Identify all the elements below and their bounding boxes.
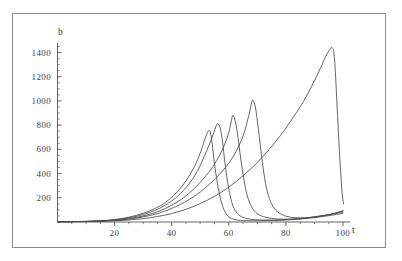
- chart-canvas: [0, 0, 402, 261]
- y-tick-label: 1400: [32, 48, 52, 58]
- series-line-5: [58, 47, 344, 221]
- y-tick-label: 1200: [32, 72, 52, 82]
- x-tick-label: 60: [224, 228, 234, 238]
- x-tick-label: 100: [336, 228, 351, 238]
- series-line-2: [58, 124, 344, 222]
- y-axis-label: b: [58, 27, 63, 37]
- x-tick-label: 20: [110, 228, 120, 238]
- y-tick-label: 400: [37, 169, 52, 179]
- y-tick-label: 800: [37, 120, 52, 130]
- x-axis-label: t: [352, 225, 355, 235]
- y-tick-label: 1000: [32, 96, 52, 106]
- x-tick-label: 80: [281, 228, 291, 238]
- y-tick-label: 600: [37, 144, 52, 154]
- curves-group: [58, 47, 344, 221]
- axes-group: [58, 43, 351, 226]
- series-line-3: [58, 115, 344, 221]
- series-line-1: [58, 130, 344, 221]
- x-tick-label: 40: [167, 228, 177, 238]
- y-tick-label: 200: [37, 193, 52, 203]
